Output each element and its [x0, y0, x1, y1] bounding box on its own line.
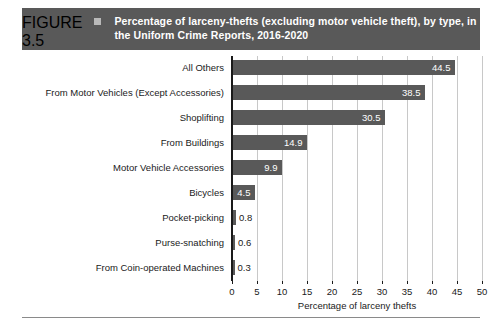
- tick-label: 50: [477, 286, 488, 297]
- bar-row: 9.9: [232, 160, 482, 175]
- x-axis-ticks: 05101520253035404550: [232, 284, 482, 298]
- bar-value-label: 30.5: [232, 110, 385, 125]
- tick-mark: [407, 281, 408, 284]
- tick-label: 35: [402, 286, 413, 297]
- tick-mark: [282, 281, 283, 284]
- bottom-divider: [22, 317, 480, 318]
- figure-banner: FIGURE 3.5 Percentage of larceny-thefts …: [22, 8, 480, 50]
- bar-value-label: 38.5: [232, 85, 425, 100]
- tick-mark: [482, 281, 483, 284]
- bar-row: 30.5: [232, 110, 482, 125]
- figure-number: FIGURE 3.5: [22, 14, 82, 50]
- tick-mark: [432, 281, 433, 284]
- x-axis-title: Percentage of larceny thefts: [232, 300, 482, 311]
- bar-value-label: 44.5: [232, 60, 455, 75]
- bar-row: 38.5: [232, 85, 482, 100]
- category-label: All Others: [182, 60, 224, 75]
- tick-label: 45: [452, 286, 463, 297]
- tick-label: 20: [327, 286, 338, 297]
- bar-row: 0.3: [232, 260, 482, 275]
- category-label: Motor Vehicle Accessories: [113, 160, 224, 175]
- category-label: From Buildings: [161, 135, 224, 150]
- bar-row: 0.8: [232, 210, 482, 225]
- tick-mark: [357, 281, 358, 284]
- bar-row: 14.9: [232, 135, 482, 150]
- category-label: Shoplifting: [180, 110, 224, 125]
- tick-mark: [307, 281, 308, 284]
- bar-value-label: 9.9: [232, 160, 282, 175]
- category-label: From Coin-operated Machines: [96, 260, 224, 275]
- bar-value-label: 14.9: [232, 135, 307, 150]
- tick-mark: [382, 281, 383, 284]
- category-label: Purse-snatching: [155, 235, 224, 250]
- bar-value-label: 4.5: [232, 185, 255, 200]
- value-axis-line: [231, 56, 233, 281]
- bar-row: 44.5: [232, 60, 482, 75]
- square-bullet-icon: [94, 18, 101, 25]
- tick-mark: [457, 281, 458, 284]
- bar-value-label: 0.3: [235, 260, 251, 275]
- gridline: [482, 56, 483, 281]
- tick-mark: [257, 281, 258, 284]
- bar-row: 0.6: [232, 235, 482, 250]
- tick-label: 25: [352, 286, 363, 297]
- bar-chart: All OthersFrom Motor Vehicles (Except Ac…: [0, 56, 502, 296]
- tick-mark: [332, 281, 333, 284]
- tick-label: 0: [229, 286, 234, 297]
- tick-label: 15: [302, 286, 313, 297]
- tick-label: 30: [377, 286, 388, 297]
- plot-area: 44.538.530.514.99.94.50.80.60.3: [232, 56, 482, 281]
- bar-row: 4.5: [232, 185, 482, 200]
- category-label: Bicycles: [189, 185, 224, 200]
- category-label: Pocket-picking: [162, 210, 224, 225]
- bar-value-label: 0.8: [236, 210, 252, 225]
- tick-label: 5: [254, 286, 259, 297]
- tick-mark: [232, 281, 233, 284]
- category-axis-labels: All OthersFrom Motor Vehicles (Except Ac…: [0, 56, 228, 281]
- category-label: From Motor Vehicles (Except Accessories): [46, 85, 224, 100]
- bar-value-label: 0.6: [235, 235, 251, 250]
- tick-label: 10: [277, 286, 288, 297]
- tick-label: 40: [427, 286, 438, 297]
- figure-title: Percentage of larceny-thefts (excluding …: [114, 14, 480, 42]
